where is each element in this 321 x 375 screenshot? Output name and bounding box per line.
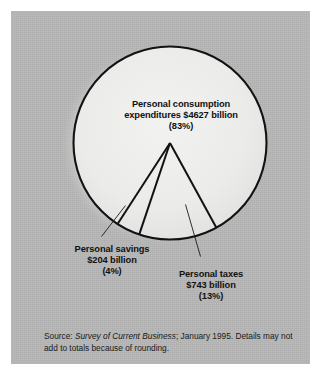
slice-label-consumption-line3: (83%) xyxy=(75,121,287,132)
slice-label-taxes-line3: (13%) xyxy=(152,291,270,302)
slice-label-savings-line2: $204 billion xyxy=(53,255,171,266)
source-note: Source: Survey of Current Business; Janu… xyxy=(44,331,302,355)
slice-label-consumption-line2: expenditures $4627 billion xyxy=(75,110,287,121)
pie-chart-figure: Personal consumption expenditures $4627 … xyxy=(0,0,321,375)
source-note-publication: Survey of Current Business xyxy=(75,331,176,341)
slice-label-consumption-line1: Personal consumption xyxy=(75,99,287,110)
slice-label-savings-line1: Personal savings xyxy=(53,244,171,255)
slice-label-taxes-line1: Personal taxes xyxy=(152,269,270,280)
source-note-prefix: Source: xyxy=(44,331,75,341)
slice-label-consumption: Personal consumption expenditures $4627 … xyxy=(75,99,287,132)
pie-chart-graphic xyxy=(11,11,310,364)
chart-panel: Personal consumption expenditures $4627 … xyxy=(11,11,310,364)
slice-label-taxes: Personal taxes $743 billion (13%) xyxy=(152,269,270,302)
slice-label-taxes-line2: $743 billion xyxy=(152,280,270,291)
